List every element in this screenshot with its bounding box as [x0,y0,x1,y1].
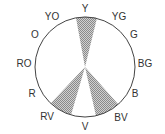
color-wheel-svg: YYGGBGBBVVRVRROOYO [0,0,165,134]
hue-label-rv: RV [40,111,54,122]
hue-label-bv: BV [114,112,128,123]
hue-label-o: O [31,29,39,40]
hue-label-y: Y [82,3,89,14]
hue-label-ro: RO [17,58,32,69]
hue-label-yo: YO [45,11,60,22]
hue-label-b: B [132,88,139,99]
wedge-yellow [76,17,97,67]
color-wheel-diagram: YYGGBGBBVVRVRROOYO [0,0,165,134]
hue-label-yg: YG [112,11,127,22]
hue-label-v: V [82,121,89,132]
hue-label-r: R [28,88,35,99]
hue-label-g: G [130,29,138,40]
hue-label-bg: BG [138,58,153,69]
